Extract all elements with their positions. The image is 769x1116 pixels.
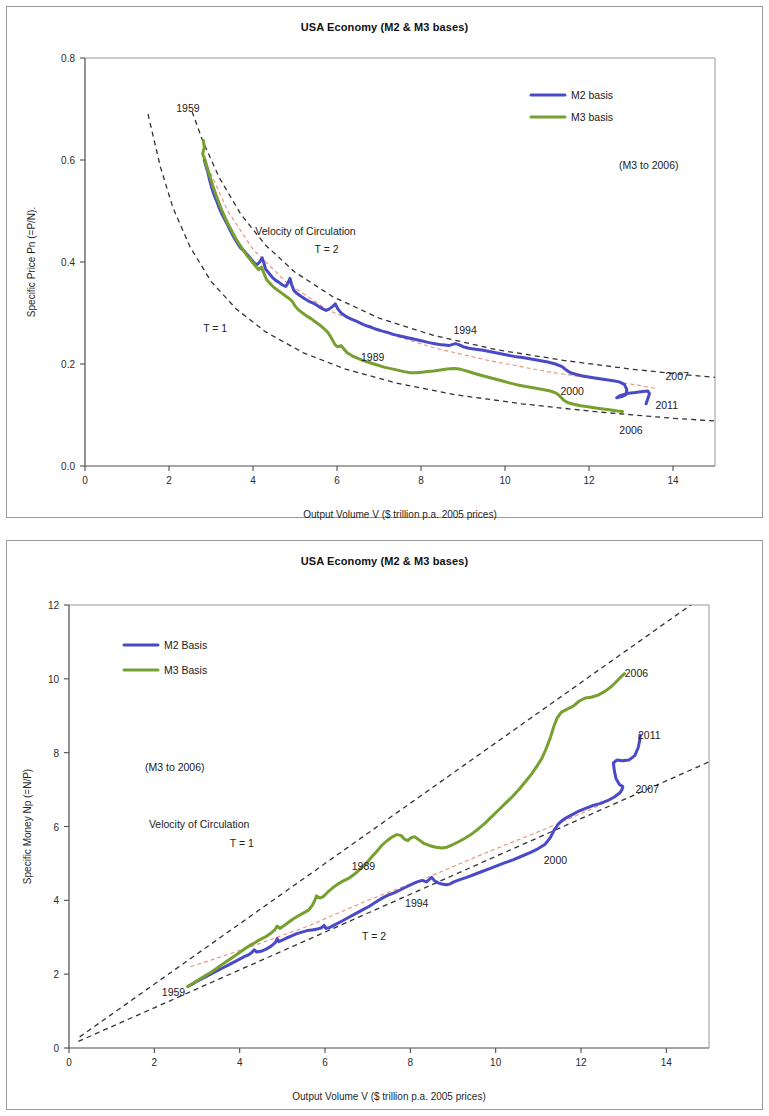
annotation-2007: 2007 — [635, 783, 659, 795]
series-line-m2-basis — [189, 735, 640, 986]
y-tick-label: 4 — [53, 895, 59, 906]
series-line-m3-basis — [188, 674, 625, 987]
x-axis-title: Output Volume V ($ trillion p.a. 2005 pr… — [292, 1091, 485, 1102]
series-line-m3-basis — [203, 141, 623, 412]
annotation-1994: 1994 — [453, 324, 477, 336]
velocity-guides — [148, 112, 715, 421]
chart-1-canvas: 024681012140.00.20.40.60.8Output Volume … — [7, 7, 764, 519]
series-line-m2-basis — [204, 160, 649, 404]
x-tick-label: 4 — [250, 475, 256, 486]
page-root: USA Economy (M2 & M3 bases) 024681012140… — [0, 0, 769, 1116]
annotation-velocity-of-circulation: Velocity of Circulation — [149, 818, 250, 830]
x-tick-label: 10 — [490, 1057, 502, 1068]
annotations: 1959Velocity of CirculationT = 2T = 1199… — [176, 102, 689, 437]
annotation-t-1: T = 1 — [230, 837, 254, 849]
chart-note: (M3 to 2006) — [145, 761, 205, 773]
annotation-1959: 1959 — [176, 102, 200, 114]
annotation-1959: 1959 — [162, 986, 186, 998]
annotation-velocity-of-circulation: Velocity of Circulation — [255, 225, 356, 237]
annotation-1989: 1989 — [361, 351, 385, 363]
figure-specific-money: USA Economy (M2 & M3 bases) 024681012140… — [6, 540, 763, 1110]
trend-line — [205, 160, 657, 389]
chart-2-canvas: 02468101214024681012Output Volume V ($ t… — [7, 541, 764, 1111]
y-tick-label: 0.0 — [61, 461, 75, 472]
x-tick-label: 0 — [66, 1057, 72, 1068]
x-tick-label: 12 — [575, 1057, 587, 1068]
x-tick-label: 8 — [418, 475, 424, 486]
y-tick-label: 0 — [53, 1043, 59, 1054]
guide-curve-1 — [80, 592, 709, 1037]
y-tick-label: 0.8 — [61, 53, 75, 64]
annotation-t-2: T = 2 — [314, 243, 338, 255]
data-series-group — [203, 141, 650, 412]
data-series-group — [188, 674, 640, 987]
plot-frame — [85, 58, 715, 466]
x-tick-label: 6 — [322, 1057, 328, 1068]
annotation-2007: 2007 — [666, 370, 690, 382]
velocity-guides — [78, 592, 709, 1041]
annotation-1989: 1989 — [352, 860, 376, 872]
x-tick-label: 8 — [408, 1057, 414, 1068]
y-axis: 0.00.20.40.60.8 — [61, 53, 85, 472]
y-tick-label: 12 — [48, 600, 60, 611]
y-tick-label: 6 — [53, 822, 59, 833]
y-axis: 024681012 — [48, 600, 69, 1054]
guide-curve-2 — [192, 112, 715, 378]
annotation-2000: 2000 — [544, 854, 568, 866]
legend-label-m3-basis: M3 Basis — [164, 664, 207, 676]
legend: M2 basisM3 basis — [531, 89, 613, 123]
annotations: Velocity of CirculationT = 1T = 21959198… — [149, 667, 661, 998]
guide-curve-2 — [78, 762, 709, 1042]
annotation-2011: 2011 — [638, 729, 661, 741]
x-tick-label: 12 — [583, 475, 595, 486]
y-axis-title: Specific Money Np (=N/P) — [22, 769, 33, 884]
annotation-2000: 2000 — [561, 385, 585, 397]
axis-lines — [85, 58, 715, 466]
x-axis-title: Output Volume V ($ trillion p.a. 2005 pr… — [303, 509, 496, 520]
x-tick-label: 10 — [499, 475, 511, 486]
y-tick-label: 8 — [53, 748, 59, 759]
legend-label-m3-basis: M3 basis — [571, 111, 613, 123]
x-tick-label: 14 — [667, 475, 679, 486]
x-axis: 02468101214 — [66, 1048, 672, 1068]
x-tick-label: 2 — [152, 1057, 158, 1068]
chart-note: (M3 to 2006) — [619, 159, 679, 171]
legend: M2 BasisM3 Basis — [124, 639, 207, 676]
annotation-1994: 1994 — [405, 897, 429, 909]
y-tick-label: 0.4 — [61, 257, 75, 268]
annotation-2006: 2006 — [625, 667, 649, 679]
trend-line-group — [205, 160, 657, 389]
annotation-2006: 2006 — [619, 424, 643, 436]
annotation-2011: 2011 — [655, 399, 678, 411]
x-tick-label: 14 — [661, 1057, 673, 1068]
y-axis-title: Specific Price Pn (=P/N). — [26, 207, 37, 317]
x-axis: 02468101214 — [82, 466, 679, 486]
legend-label-m2-basis: M2 basis — [571, 89, 613, 101]
y-tick-label: 10 — [48, 674, 60, 685]
y-tick-label: 0.6 — [61, 155, 75, 166]
x-tick-label: 6 — [334, 475, 340, 486]
x-tick-label: 0 — [82, 475, 88, 486]
x-tick-label: 4 — [237, 1057, 243, 1068]
y-tick-label: 2 — [53, 969, 59, 980]
y-tick-label: 0.2 — [61, 359, 75, 370]
annotation-t-1: T = 1 — [203, 322, 227, 334]
plot-box-outline — [85, 58, 715, 466]
figure-specific-price: USA Economy (M2 & M3 bases) 024681012140… — [6, 6, 763, 518]
legend-label-m2-basis: M2 Basis — [164, 639, 207, 651]
annotation-t-2: T = 2 — [362, 930, 386, 942]
x-tick-label: 2 — [166, 475, 172, 486]
